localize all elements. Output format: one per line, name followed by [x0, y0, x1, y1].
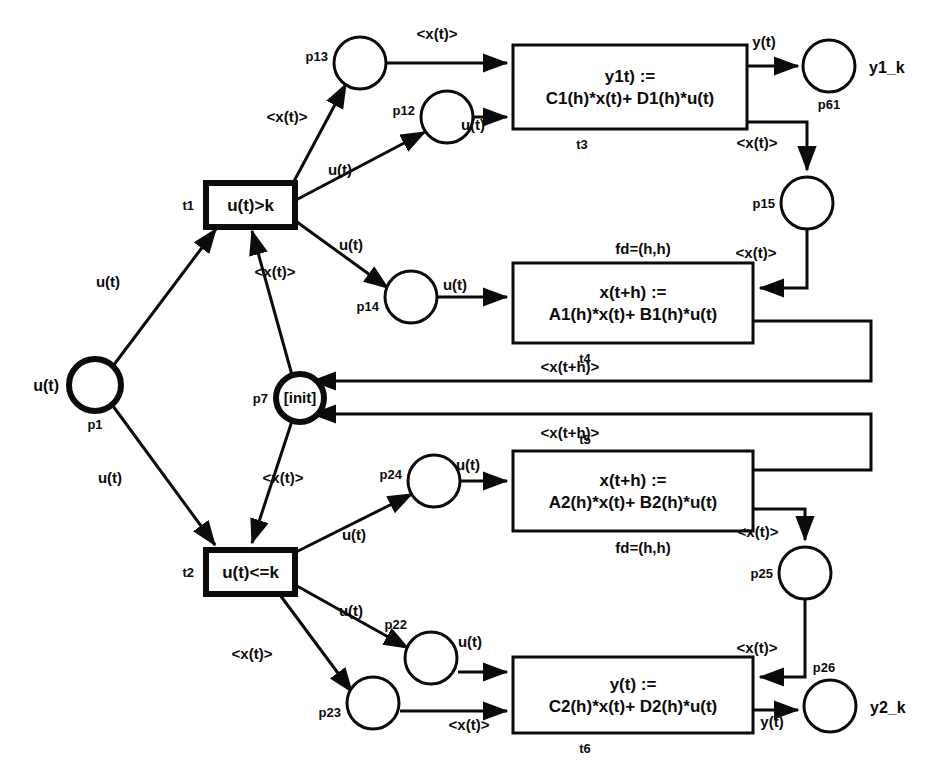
place-id-label: p1 — [87, 417, 102, 432]
transition-box — [513, 45, 747, 129]
transition-text-line: x(t+h) := — [599, 283, 666, 302]
place-external-label: y1_k — [869, 59, 905, 76]
place-circle — [69, 359, 121, 411]
transition-t5[interactable]: x(t+h) :=A2(h)*x(t)+ B2(h)*u(t)t5fd=(h,h… — [513, 432, 753, 556]
arc-label-a22: <x(t)> — [232, 645, 273, 662]
arc-t1-p14 — [297, 222, 388, 288]
place-p23[interactable]: p23 — [319, 677, 399, 729]
arc-label-a2: <x(t)> — [267, 108, 308, 125]
transition-fd-label: fd=(h,h) — [615, 240, 670, 257]
place-id-label: p25 — [751, 566, 773, 581]
transition-t1[interactable]: u(t)>kt1 — [182, 183, 295, 227]
place-p24[interactable]: p24 — [380, 455, 460, 507]
transition-id-label: t1 — [182, 198, 194, 213]
arc-label-a13: <x(t+h)> — [541, 358, 600, 375]
arc-label-a12: <x(t)> — [255, 263, 296, 280]
place-id-label: p12 — [393, 103, 415, 118]
arc-label-a25: y(t) — [760, 713, 783, 730]
place-init-marking: [init] — [284, 389, 316, 406]
arc-t2-p24 — [296, 494, 412, 552]
place-circle — [334, 37, 386, 89]
place-circle — [781, 177, 833, 229]
arc-label-a3: u(t) — [328, 161, 352, 178]
place-circle — [803, 40, 855, 92]
arc-label-a16: <x(t)> — [263, 469, 304, 486]
arc-label-a17: u(t) — [342, 526, 366, 543]
transition-id-label: t2 — [182, 565, 194, 580]
place-id-label: p14 — [357, 299, 380, 314]
transition-id-label: t6 — [579, 741, 591, 756]
place-p1[interactable]: p1u(t) — [33, 359, 121, 432]
arc-label-a6: <x(t)> — [737, 134, 778, 151]
transition-fd-label: fd=(h,h) — [615, 539, 670, 556]
transition-box — [513, 451, 753, 531]
transition-text-line: A2(h)*x(t)+ B2(h)*u(t) — [549, 493, 718, 512]
arc-label-a20: u(t) — [458, 633, 482, 650]
place-p15[interactable]: p15 — [753, 177, 833, 229]
transition-text-line: C1(h)*x(t)+ D1(h)*u(t) — [546, 89, 715, 108]
transition-text-line: A1(h)*x(t)+ B1(h)*u(t) — [549, 305, 718, 324]
diagram-svg: p1u(t)[init]p7p12p13p14p15p61y1_kp22p23p… — [0, 0, 949, 783]
arc-label-a7: u(t) — [339, 236, 363, 253]
arc-label-a10: <x(t)> — [736, 244, 777, 261]
place-id-label: p26 — [813, 660, 835, 675]
place-circle — [804, 680, 856, 732]
transition-t6[interactable]: y(t) :=C2(h)*x(t)+ D2(h)*u(t)t6 — [513, 657, 753, 756]
transition-text-line: u(t)>k — [227, 196, 274, 215]
place-id-label: p61 — [818, 97, 840, 112]
place-p26[interactable]: p26y2_k — [804, 660, 906, 732]
transition-text-line: y1t) := — [605, 67, 656, 86]
place-p25[interactable]: p25 — [751, 547, 831, 599]
transition-t2[interactable]: u(t)<=kt2 — [182, 550, 295, 594]
place-circle — [405, 632, 457, 684]
place-id-label: p15 — [753, 196, 775, 211]
arc-label-a21: <x(t)> — [738, 523, 779, 540]
arc-label-a18: u(t) — [456, 456, 480, 473]
transition-box — [513, 657, 753, 733]
arc-label-a4: u(t) — [461, 116, 485, 133]
transition-text-line: x(t+h) := — [599, 471, 666, 490]
place-id-label: p23 — [319, 705, 341, 720]
transition-text-line: C2(h)*x(t)+ D2(h)*u(t) — [549, 697, 718, 716]
place-id-label: p13 — [306, 49, 328, 64]
transition-id-label: t3 — [576, 137, 588, 152]
transition-t3[interactable]: y1t) :=C1(h)*x(t)+ D1(h)*u(t)t3 — [513, 45, 747, 152]
place-circle — [779, 547, 831, 599]
transition-text-line: u(t)<=k — [222, 563, 279, 582]
arc-p1-t2 — [113, 406, 215, 545]
place-external-label: y2_k — [870, 699, 906, 716]
arc-p1-t1 — [113, 229, 216, 366]
transition-box — [513, 263, 753, 343]
arc-label-a19: u(t) — [339, 602, 363, 619]
arc-label-a24: <x(t)> — [737, 639, 778, 656]
arc-label-a11: u(t) — [96, 273, 120, 290]
arc-label-a8: u(t) — [443, 276, 467, 293]
arc-layer — [113, 63, 871, 711]
place-id-label: p22 — [385, 617, 407, 632]
place-circle — [408, 455, 460, 507]
place-external-label: u(t) — [33, 377, 59, 394]
place-id-label: p24 — [380, 467, 403, 482]
transition-t4[interactable]: x(t+h) :=A1(h)*x(t)+ B1(h)*u(t)t4fd=(h,h… — [513, 240, 753, 366]
arc-label-a1: <x(t)> — [417, 25, 458, 42]
petri-net-diagram: p1u(t)[init]p7p12p13p14p15p61y1_kp22p23p… — [0, 0, 949, 783]
arc-label-a14: <x(t+h)> — [541, 424, 600, 441]
transition-text-line: y(t) := — [610, 675, 657, 694]
arc-label-a15: u(t) — [98, 469, 122, 486]
place-p7[interactable]: [init]p7 — [253, 374, 324, 422]
place-id-label: p7 — [253, 391, 268, 406]
arc-label-a23: <x(t)> — [449, 716, 490, 733]
place-p61[interactable]: p61y1_k — [803, 40, 905, 112]
place-circle — [385, 271, 437, 323]
place-p14[interactable]: p14 — [357, 271, 437, 323]
arc-p7-t1 — [252, 231, 292, 375]
arc-label-a5: y(t) — [752, 33, 775, 50]
place-p13[interactable]: p13 — [306, 37, 386, 89]
place-p22[interactable]: p22 — [385, 617, 457, 684]
place-circle — [347, 677, 399, 729]
